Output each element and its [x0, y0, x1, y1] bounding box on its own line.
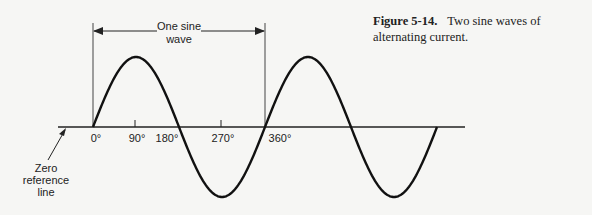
one-sine-wave-label-2: wave — [165, 33, 192, 45]
one-sine-wave-label: One sine — [157, 20, 201, 32]
tick-label-0: 0° — [91, 132, 102, 144]
figure-number: Figure 5-14. — [373, 14, 437, 28]
zero-reference-label-2: reference — [23, 174, 69, 186]
zero-reference-label-1: Zero — [35, 162, 58, 174]
tick-label-360: 360° — [269, 132, 292, 144]
tick-label-180: 180° — [156, 132, 179, 144]
tick-label-270: 270° — [212, 132, 235, 144]
arrowhead-icon — [59, 128, 66, 136]
figure-caption: Figure 5-14.Two sine waves of alternatin… — [373, 13, 592, 45]
zero-reference-label-3: line — [37, 186, 54, 198]
tick-label-90: 90° — [129, 132, 146, 144]
